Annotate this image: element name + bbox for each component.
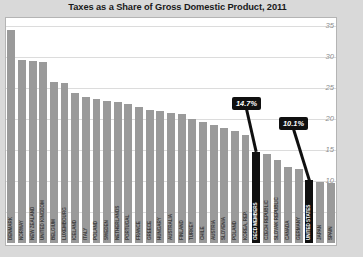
bar-category-label: LUXEMBOURG — [62, 207, 68, 240]
bar-category-label: AUSTRIA — [211, 220, 217, 240]
bar-slot: NORWAY — [18, 18, 26, 245]
bar[interactable]: GREECE — [146, 110, 154, 243]
bar-category-label: KOREA, REP. — [243, 211, 249, 240]
bar-slot: SLOVENIA — [220, 18, 228, 245]
bar-slot: ICELAND — [71, 18, 79, 245]
bar-slot: BELGIUM — [50, 18, 58, 245]
bar-slot: SLOVAK REPUBLIC — [274, 18, 282, 245]
bar[interactable]: JAPAN — [316, 182, 324, 243]
bar-slot: LUXEMBOURG — [61, 18, 69, 245]
bar-slot: TURKEY — [188, 18, 196, 245]
bar-category-label: ICELAND — [72, 220, 78, 240]
bar[interactable]: BELGIUM — [50, 82, 58, 243]
bar-slot: SWEDEN — [103, 18, 111, 245]
bar-category-label: PORTUGAL — [125, 215, 131, 240]
bar[interactable]: SPAIN — [327, 183, 335, 243]
bar-category-label: CZECH REPUBLIC — [264, 200, 270, 240]
bar-slot: HUNGARY — [156, 18, 164, 245]
bar[interactable]: POLAND — [231, 131, 239, 243]
bar-slot: UNITED KINGDOM — [39, 18, 47, 245]
bar[interactable]: SLOVENIA — [220, 128, 228, 243]
bar[interactable]: POLAND — [93, 99, 101, 243]
bar[interactable]: OECD MEMBERS — [252, 152, 260, 243]
bar-category-label: FINLAND — [179, 220, 185, 240]
bar[interactable]: KOREA, REP. — [242, 135, 250, 243]
bar-category-label: POLAND — [93, 221, 99, 240]
bar[interactable]: UNITED STATES — [305, 180, 313, 243]
bar-category-label: GREECE — [147, 221, 153, 240]
bar-slot: DENMARK — [7, 18, 15, 245]
bar[interactable]: AUSTRALIA — [167, 113, 175, 243]
bar-slot: JAPAN — [316, 18, 324, 245]
bar-category-label: GERMANY — [296, 217, 302, 240]
bar-category-label: NETHERLANDS — [115, 206, 121, 240]
bar-category-label: CANADA — [285, 220, 291, 240]
bar[interactable]: PORTUGAL — [124, 104, 132, 243]
bar[interactable]: AUSTRIA — [210, 125, 218, 243]
bar[interactable]: NEW ZEALAND — [29, 61, 37, 243]
bar-category-label: NEW ZEALAND — [30, 207, 36, 240]
bar-series: DENMARKNORWAYNEW ZEALANDUNITED KINGDOMBE… — [6, 18, 336, 245]
bar-category-label: ITALY — [83, 228, 89, 240]
bar-category-label: UNITED STATES — [306, 205, 312, 240]
bar-category-label: SWEDEN — [104, 220, 110, 240]
bar[interactable]: LUXEMBOURG — [61, 83, 69, 243]
bar[interactable]: TURKEY — [188, 119, 196, 243]
bar-category-label: BELGIUM — [51, 219, 57, 240]
bar[interactable]: FINLAND — [178, 114, 186, 243]
bar[interactable]: UNITED KINGDOM — [39, 62, 47, 243]
bar-slot: AUSTRIA — [210, 18, 218, 245]
bar-slot: NETHERLANDS — [114, 18, 122, 245]
bar-slot: AUSTRALIA — [167, 18, 175, 245]
bar-slot: POLAND — [231, 18, 239, 245]
bar-category-label: NORWAY — [19, 220, 25, 240]
bar-category-label: SLOVENIA — [221, 217, 227, 240]
bar-category-label: SLOVAK REPUBLIC — [274, 197, 280, 240]
bar[interactable]: CANADA — [284, 167, 292, 243]
bar-category-label: AUSTRALIA — [168, 214, 174, 240]
bar-category-label: JAPAN — [317, 225, 323, 240]
bar-slot: FRANCE — [135, 18, 143, 245]
bar-category-label: FRANCE — [136, 221, 142, 240]
bar-slot: CHILE — [199, 18, 207, 245]
bar-category-label: OECD MEMBERS — [253, 203, 259, 240]
bar[interactable]: FRANCE — [135, 107, 143, 243]
bar[interactable]: NETHERLANDS — [114, 102, 122, 243]
bar-category-label: SPAIN — [328, 227, 334, 240]
bar-slot: UNITED STATES — [305, 18, 313, 245]
bar-category-label: POLAND — [232, 221, 238, 240]
bar-category-label: HUNGARY — [157, 217, 163, 240]
bar[interactable]: DENMARK — [7, 30, 15, 243]
chart-title: Taxes as a Share of Gross Domestic Produ… — [0, 2, 355, 12]
bar[interactable]: ITALY — [82, 97, 90, 243]
bar[interactable]: CZECH REPUBLIC — [263, 154, 271, 243]
bar-slot: NEW ZEALAND — [29, 18, 37, 245]
bar-slot: POLAND — [93, 18, 101, 245]
chart-figure: Taxes as a Share of Gross Domestic Produ… — [0, 0, 363, 257]
bar[interactable]: SWEDEN — [103, 101, 111, 243]
bar[interactable]: HUNGARY — [156, 111, 164, 243]
bar-slot: FINLAND — [178, 18, 186, 245]
bar-slot: SPAIN — [327, 18, 335, 245]
bar[interactable]: CHILE — [199, 122, 207, 243]
bar-category-label: DENMARK — [8, 217, 14, 240]
bar-slot: PORTUGAL — [124, 18, 132, 245]
bar-slot: GREECE — [146, 18, 154, 245]
bar-slot: ITALY — [82, 18, 90, 245]
bar-category-label: TURKEY — [189, 221, 195, 240]
bar-category-label: UNITED KINGDOM — [40, 200, 46, 240]
bar-slot: KOREA, REP. — [242, 18, 250, 245]
bar-category-label: CHILE — [200, 226, 206, 240]
bar-slot: CANADA — [284, 18, 292, 245]
bar[interactable]: NORWAY — [18, 60, 26, 243]
bar[interactable]: ICELAND — [71, 93, 79, 243]
bar[interactable]: GERMANY — [295, 169, 303, 243]
bar-slot: CZECH REPUBLIC — [263, 18, 271, 245]
bar[interactable]: SLOVAK REPUBLIC — [274, 160, 282, 243]
